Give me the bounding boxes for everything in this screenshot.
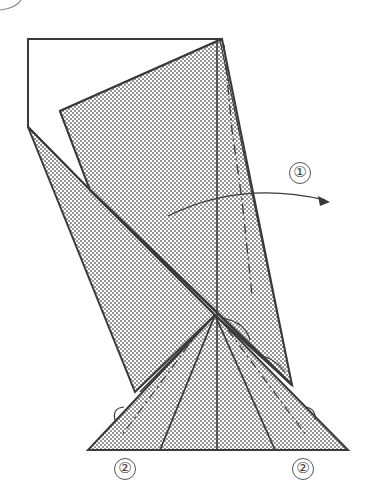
step1-arrowhead-icon xyxy=(318,196,330,206)
step-2-right-label: ② xyxy=(292,458,314,480)
origami-diagram xyxy=(0,0,369,489)
step-2-left-label: ② xyxy=(114,458,136,480)
previous-step-circle-arc xyxy=(0,0,22,10)
step-1-label: ① xyxy=(289,162,311,184)
